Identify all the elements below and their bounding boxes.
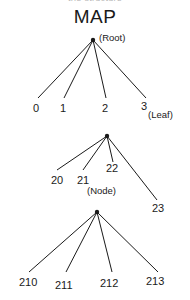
node-annotation: (Node) <box>87 186 116 196</box>
level2-node-dot <box>105 134 109 138</box>
leaf-annotation: (Leaf) <box>148 110 173 120</box>
tree-diagram-canvas: trie structure MAP (Root) 0 <box>0 0 190 300</box>
node-label-1: 1 <box>60 103 66 114</box>
root-node-dot <box>91 38 95 42</box>
edge-root-to-3 <box>93 40 146 98</box>
node-label-0: 0 <box>33 103 39 114</box>
level3-node-dot <box>95 210 99 214</box>
edge-root-to-1 <box>64 40 93 98</box>
node-label-212: 212 <box>100 278 118 289</box>
edge-root-to-0 <box>38 40 93 98</box>
node-label-213: 213 <box>146 276 164 287</box>
node-label-20: 20 <box>51 175 63 186</box>
node-label-3: 3 <box>141 101 147 112</box>
node-label-23: 23 <box>152 203 164 214</box>
node-label-210: 210 <box>19 277 37 288</box>
node-label-2: 2 <box>102 103 108 114</box>
edge-21-to-211 <box>66 212 97 272</box>
edge-root-to-2 <box>93 40 106 98</box>
tree-edges-graphic <box>0 0 190 300</box>
node-label-211: 211 <box>55 280 73 291</box>
edge-21-to-210 <box>29 212 97 272</box>
edge-21-to-212 <box>97 212 112 272</box>
edge-2-to-20 <box>57 136 107 170</box>
node-label-22: 22 <box>106 163 118 174</box>
edge-2-to-21 <box>83 136 107 170</box>
root-annotation: (Root) <box>99 33 125 43</box>
edge-21-to-213 <box>97 212 158 272</box>
